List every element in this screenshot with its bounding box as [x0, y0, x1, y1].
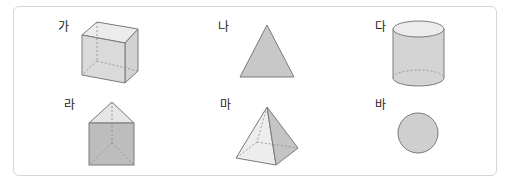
figure-ga: 가: [58, 20, 138, 83]
circle-icon: [398, 113, 438, 153]
figure-label-ra: 라: [64, 98, 75, 112]
triangular-prism-icon: [89, 102, 134, 165]
triangle-icon: [240, 25, 294, 77]
figure-label-ga: 가: [58, 20, 69, 34]
figure-label-da: 다: [375, 20, 386, 34]
figure-da: 다: [375, 20, 444, 86]
figure-ba: 바: [375, 98, 438, 153]
figure-ra: 라: [64, 98, 134, 165]
figure-label-ba: 바: [375, 98, 386, 112]
figure-ma: 마: [220, 98, 298, 165]
figures-canvas: 가 나 다 라: [0, 0, 515, 184]
cube-icon: [82, 22, 138, 83]
figure-label-ma: 마: [220, 98, 231, 112]
square-pyramid-icon: [236, 107, 298, 165]
cylinder-icon: [393, 21, 444, 86]
figure-label-na: 나: [218, 20, 229, 34]
figure-na: 나: [218, 20, 294, 77]
